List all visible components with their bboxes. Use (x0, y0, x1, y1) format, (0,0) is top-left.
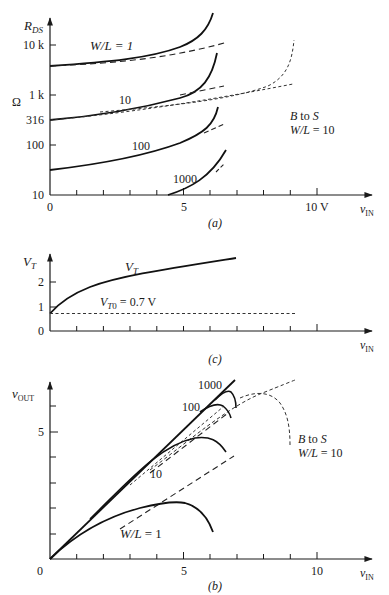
label-a-wl1000: 1000 (173, 172, 197, 186)
curve-b-wl10-ideal (150, 413, 228, 473)
curve-b-wl1000 (215, 391, 236, 408)
panel-b: vOUT 5 0 5 10 vIN (b) 1000 100 10 W/L = … (12, 378, 374, 593)
annotation-b-line2: W/L = 10 (298, 446, 343, 460)
curve-a-wl10-ideal (180, 86, 224, 95)
label-a-wl1: W/L = 1 (90, 38, 133, 53)
label-b-wl1: W/L = 1 (120, 526, 162, 541)
label-c-vt: VT (125, 259, 139, 276)
label-b-wl10: 10 (150, 467, 162, 481)
curve-a-wl1-ideal (50, 42, 228, 66)
annotation-a-line1: B to S (290, 109, 319, 123)
panel-c-y-label: VT (23, 254, 37, 271)
panel-b-x-ticks (77, 552, 317, 559)
panel-a-x-label: vIN (360, 202, 374, 218)
panel-c-x-ticks (77, 324, 317, 331)
panel-a-y-ticks (50, 45, 56, 145)
panel-a-xtick-5: 5 (181, 200, 187, 214)
panel-b-xtick-0: 0 (37, 564, 43, 578)
label-c-vt0: VT0 = 0.7 V (100, 295, 156, 311)
panel-b-xtick-5: 5 (181, 564, 187, 578)
panel-c: VT 2 1 0 vIN (c) VT VT0 = 0.7 V (23, 254, 374, 366)
panel-a-tick-10: 10 (32, 188, 44, 202)
panel-c-tick-1: 1 (38, 300, 44, 314)
panel-a-tick-100: 100 (26, 138, 44, 152)
panel-c-y-ticks (50, 282, 56, 307)
panel-a-xtick-0: 0 (47, 200, 53, 214)
panel-b-xtick-10: 10 (311, 564, 323, 578)
panel-b-y-label: vOUT (12, 386, 34, 403)
panel-c-x-label: vIN (360, 338, 374, 354)
panel-b-x-label: vIN (360, 566, 374, 582)
annotation-a-line2: W/L = 10 (290, 123, 335, 137)
curve-a-wl10 (50, 53, 217, 120)
panel-a-tick-316: 316 (26, 113, 44, 127)
panel-c-caption: (c) (208, 352, 221, 366)
curve-b-wl100-ideal (130, 407, 223, 485)
panel-b-tick-5: 5 (38, 425, 44, 439)
label-b-wl1000: 1000 (198, 378, 222, 392)
curve-b-wl1-ideal (120, 456, 234, 529)
curve-b-bs-droop (240, 393, 290, 445)
panel-a-unit-ohm: Ω (12, 95, 21, 109)
panel-a-tick-1k: 1 k (29, 88, 44, 102)
annotation-b-line1: B to S (298, 432, 327, 446)
label-a-wl100: 100 (132, 139, 150, 153)
figure-canvas: RDS Ω 10 k 1 k 316 100 10 0 5 10 V vIN (… (0, 0, 389, 595)
panel-c-tick-2: 2 (38, 275, 44, 289)
panel-b-y-ticks (50, 406, 58, 534)
curve-b-wl100 (200, 405, 231, 418)
panel-c-tick-0: 0 (38, 324, 44, 338)
panel-a-x-ticks (77, 188, 317, 195)
label-a-wl10: 10 (119, 93, 131, 107)
panel-a-y-label: RDS (23, 18, 43, 35)
panel-a-caption: (a) (208, 216, 222, 230)
panel-a: RDS Ω 10 k 1 k 316 100 10 0 5 10 V vIN (… (12, 13, 374, 230)
curve-a-bs-lower (50, 84, 293, 120)
panel-a-xtick-10: 10 V (305, 200, 329, 214)
panel-b-caption: (b) (208, 579, 222, 593)
label-b-wl100: 100 (182, 400, 200, 414)
panel-a-tick-10k: 10 k (23, 38, 44, 52)
